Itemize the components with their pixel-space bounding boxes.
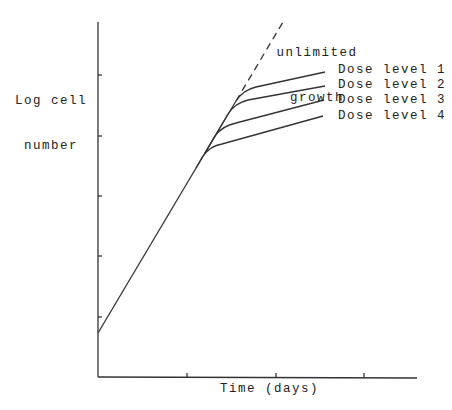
x-axis-label: Time (days)	[220, 382, 319, 397]
growth-line	[98, 153, 205, 333]
legend-dose-level-3: Dose level 3	[338, 93, 446, 108]
x-axis	[98, 377, 417, 378]
growth-chart: Log cell number unlimited growth Dose le…	[0, 0, 452, 410]
legend-dose-level-1: Dose level 1	[338, 63, 446, 78]
legend-dose-level-4: Dose level 4	[338, 109, 446, 124]
y-axis-label: Log cell number	[8, 64, 94, 184]
legend-dose-level-2: Dose level 2	[338, 78, 446, 93]
chart-canvas	[0, 0, 452, 410]
y-axis-label-line2: number	[8, 139, 94, 154]
y-axis-label-line1: Log cell	[8, 94, 94, 109]
x-ticks	[187, 373, 364, 377]
growth-label-line1: unlimited	[262, 46, 372, 61]
